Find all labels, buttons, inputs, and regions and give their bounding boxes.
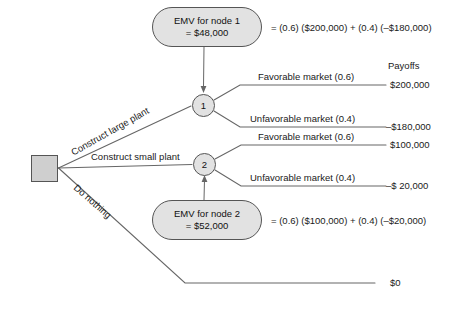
branch-label-node2-favorable[interactable]: Favorable market (0.6): [258, 132, 354, 143]
arrow-emv2-to-node2: [204, 180, 205, 200]
chance-node-2[interactable]: 2: [193, 153, 216, 176]
emv-node-1-box: EMV for node 1 = $48,000: [152, 7, 262, 47]
emv-node-1-line1: EMV for node 1: [174, 15, 240, 27]
chance-node-1-label: 1: [201, 100, 206, 111]
arrow-emv1-to-node1: [204, 47, 205, 88]
branch-label-node2-unfavorable[interactable]: Unfavorable market (0.4): [250, 173, 355, 184]
branch-label-node1-favorable[interactable]: Favorable market (0.6): [258, 72, 354, 83]
arrowhead-up-node2: [202, 175, 208, 182]
emv-node-2-box: EMV for node 2 = $52,000: [152, 200, 262, 240]
emv-node-2-equation: = (0.6) ($100,000) + (0.4) (–$20,000): [271, 215, 426, 226]
chance-node-1[interactable]: 1: [192, 94, 215, 117]
payoff-node2-unfavorable: –$ 20,000: [386, 180, 428, 191]
arrowhead-down-node1: [201, 86, 207, 93]
branch-node1-favorable: [214, 85, 386, 100]
emv-node-2-line2: = $52,000: [186, 220, 229, 232]
payoff-node1-unfavorable: –$180,000: [386, 121, 431, 132]
branch-label-node1-unfavorable[interactable]: Unfavorable market (0.4): [250, 114, 355, 125]
emv-node-1-equation: = (0.6) ($200,000) + (0.4) (–$180,000): [271, 22, 432, 33]
payoff-node2-favorable: $100,000: [390, 139, 430, 150]
decision-tree-diagram: 1 2 EMV for node 1 = $48,000 = (0.6) ($2…: [0, 0, 455, 311]
branch-construct-small-plant: [59, 165, 193, 169]
emv-node-1-line2: = $48,000: [186, 27, 229, 39]
payoffs-column-header: Payoffs: [388, 60, 420, 71]
emv-node-2-line1: EMV for node 2: [174, 208, 240, 220]
branch-label-construct-small-plant[interactable]: Construct small plant: [91, 152, 180, 163]
branch-node2-favorable: [215, 145, 386, 159]
payoff-do-nothing: $0: [390, 277, 401, 288]
decision-square-node[interactable]: [31, 155, 58, 182]
chance-node-2-label: 2: [202, 159, 207, 170]
payoff-node1-favorable: $200,000: [390, 79, 430, 90]
